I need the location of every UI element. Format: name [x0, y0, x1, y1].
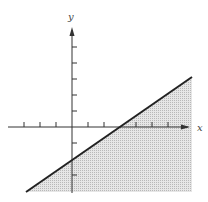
x-axis-label: x	[197, 122, 203, 133]
y-ticks	[72, 47, 77, 175]
y-axis-label: y	[67, 11, 74, 22]
y-axis-arrow-icon	[70, 27, 75, 36]
inequality-graph: x y	[0, 0, 208, 202]
